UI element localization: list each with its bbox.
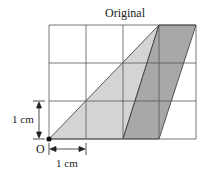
scale-y-arrow (33, 101, 45, 139)
scale-x-arrow (49, 143, 86, 155)
origin-point (46, 136, 51, 141)
diagram-canvas (0, 0, 207, 177)
scale-y-label: 1 cm (12, 113, 34, 125)
origin-label: O (36, 142, 45, 157)
scale-x-label: 1 cm (56, 157, 78, 169)
diagram-title: Original (105, 6, 145, 21)
